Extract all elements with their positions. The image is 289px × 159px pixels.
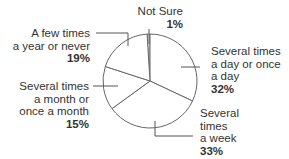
- label-not-sure-line1: Not Sure: [130, 5, 183, 18]
- label-daily: Several times a day or once a day 32%: [211, 45, 281, 95]
- label-weekly-line3: a week: [200, 132, 239, 145]
- label-not-sure: Not Sure 1%: [130, 5, 183, 30]
- label-weekly: Several times a week 33%: [200, 107, 239, 157]
- pie-slices: [103, 34, 197, 128]
- label-monthly-line2: a month or: [8, 93, 89, 106]
- label-yearly-line2: a year or never: [8, 40, 90, 53]
- label-daily-pct: 32%: [211, 83, 281, 96]
- label-yearly-line1: A few times: [8, 27, 90, 40]
- label-weekly-line1: Several: [200, 107, 239, 120]
- label-not-sure-pct: 1%: [130, 18, 183, 31]
- label-monthly: Several times a month or once a month 15…: [8, 80, 89, 130]
- label-weekly-line2: times: [200, 120, 239, 133]
- label-daily-line2: a day or once: [211, 58, 281, 71]
- label-daily-line3: a day: [211, 70, 281, 83]
- label-monthly-line3: once a month: [8, 105, 89, 118]
- label-yearly: A few times a year or never 19%: [8, 27, 90, 65]
- label-monthly-line1: Several times: [8, 80, 89, 93]
- label-daily-line1: Several times: [211, 45, 281, 58]
- label-weekly-pct: 33%: [200, 145, 239, 158]
- label-monthly-pct: 15%: [8, 118, 89, 131]
- label-yearly-pct: 19%: [8, 52, 90, 65]
